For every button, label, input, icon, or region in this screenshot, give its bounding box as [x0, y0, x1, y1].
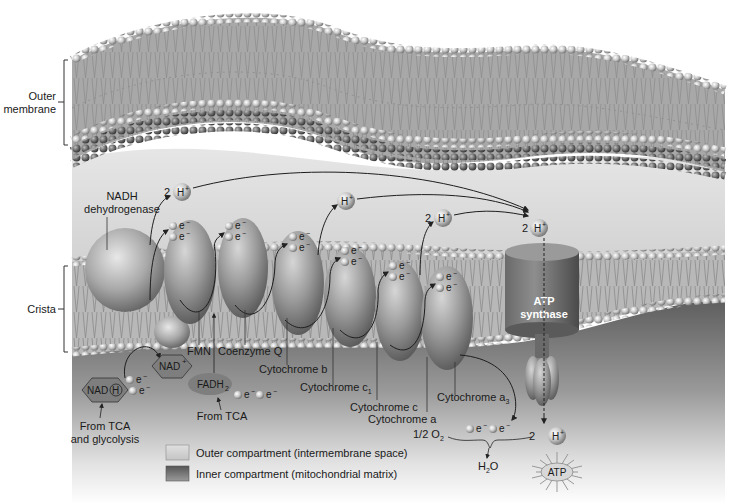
svg-text:e: e [139, 385, 145, 396]
legend-label-outer: Outer compartment (intermembrane space) [196, 447, 408, 459]
nadh-molecule: NAD H [82, 378, 128, 402]
svg-text:e: e [235, 220, 241, 231]
svg-text:e: e [179, 231, 185, 242]
svg-text:H: H [552, 431, 559, 442]
svg-text:e: e [399, 271, 405, 282]
svg-text:2: 2 [225, 385, 229, 392]
svg-text:e: e [446, 282, 452, 293]
svg-text:e: e [266, 389, 272, 400]
proton-h-cytb: H+ [337, 192, 355, 210]
svg-text:−: − [306, 241, 310, 248]
svg-text:+: + [182, 357, 187, 366]
fmn-label: FMN [187, 345, 211, 357]
svg-text:NAD: NAD [159, 361, 180, 372]
svg-text:e: e [351, 256, 357, 267]
svg-text:2: 2 [522, 222, 528, 234]
svg-text:+: + [185, 185, 189, 192]
cytochrome-c-label: Cytochrome c [350, 401, 418, 413]
svg-text:−: − [406, 270, 410, 277]
svg-text:−: − [358, 244, 362, 251]
svg-text:e: e [136, 374, 142, 385]
from-tca-glycolysis-label: From TCA [80, 420, 131, 432]
svg-text:−: − [242, 219, 246, 226]
cytochrome-b-label: Cytochrome b [259, 363, 327, 375]
svg-text:2: 2 [529, 430, 535, 442]
svg-text:−: − [406, 259, 410, 266]
svg-text:−: − [453, 270, 457, 277]
svg-text:−: − [506, 422, 510, 429]
outer-membrane-bracket: Outer membrane [3, 60, 68, 145]
svg-text:H: H [438, 213, 445, 224]
svg-text:H: H [177, 187, 184, 198]
cytochrome-c1-label: Cytochrome c1 [300, 381, 372, 395]
svg-text:e: e [399, 260, 405, 271]
svg-text:e: e [299, 242, 305, 253]
svg-text:NAD: NAD [87, 385, 108, 396]
svg-text:+: + [542, 221, 546, 228]
atp-label: ATP [548, 467, 567, 478]
crista-bracket: Crista [27, 266, 68, 352]
coenzyme-q-label: Coenzyme Q [218, 345, 283, 357]
svg-text:+: + [560, 429, 564, 436]
svg-text:−: − [186, 230, 190, 237]
svg-text:−: − [186, 219, 190, 226]
from-tca-label: From TCA [197, 410, 248, 422]
svg-text:H: H [341, 196, 348, 207]
svg-text:e: e [299, 231, 305, 242]
legend-swatch-outer [166, 445, 189, 460]
half-o2-label: 1/2 O2 [413, 428, 444, 442]
etc-diagram: Outer membrane Crista NADH dehydrogenase [0, 0, 732, 504]
svg-text:−: − [483, 422, 487, 429]
legend-swatch-inner [166, 466, 189, 481]
svg-text:2: 2 [425, 212, 431, 224]
outer-membrane-label: Outer [28, 90, 56, 102]
svg-text:+: + [446, 211, 450, 218]
svg-text:H: H [112, 385, 119, 396]
cytochrome-a3-label: Cytochrome a3 [437, 391, 509, 405]
svg-text:e: e [476, 423, 482, 434]
svg-text:FADH: FADH [197, 379, 224, 390]
nadh-dehydrogenase-label-2: dehydrogenase [84, 203, 160, 215]
svg-text:−: − [358, 255, 362, 262]
svg-text:e: e [446, 271, 452, 282]
legend-label-inner: Inner compartment (mitochondrial matrix) [196, 468, 397, 480]
svg-text:−: − [143, 373, 147, 380]
svg-text:−: − [242, 230, 246, 237]
cytochrome-a-label: Cytochrome a [368, 413, 437, 425]
svg-text:H: H [534, 223, 541, 234]
svg-text:−: − [273, 388, 277, 395]
svg-text:−: − [251, 388, 255, 395]
svg-text:e: e [244, 389, 250, 400]
from-tca-glycolysis-label-2: and glycolysis [71, 433, 140, 445]
outer-membrane-label-2: membrane [3, 103, 56, 115]
svg-text:+: + [349, 194, 353, 201]
nadh-dehydrogenase-label: NADH [106, 190, 137, 202]
svg-text:e: e [235, 231, 241, 242]
svg-text:e: e [179, 220, 185, 231]
svg-text:e: e [499, 423, 505, 434]
svg-text:−: − [146, 384, 150, 391]
svg-text:−: − [306, 230, 310, 237]
svg-text:e: e [351, 245, 357, 256]
crista-label: Crista [27, 303, 57, 315]
svg-text:−: − [453, 281, 457, 288]
